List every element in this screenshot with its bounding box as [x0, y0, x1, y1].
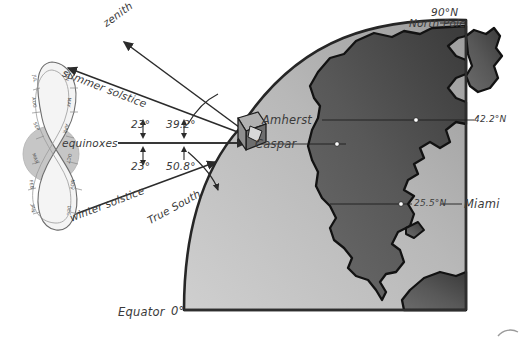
angle-392-arrowbot [181, 133, 187, 139]
zenith-ray [124, 42, 243, 130]
angle-23-lower-label: 23° [131, 160, 150, 172]
month-label-may: MAY [66, 97, 72, 107]
month-label-jan: JAN [30, 204, 36, 212]
miami-latitude-label: 25.5°N [414, 198, 446, 208]
month-label-feb: FEB [29, 180, 35, 189]
north-pole-name-label: North Pole [409, 17, 466, 29]
caspar-dot [335, 142, 340, 147]
angle-392-label: 39.2° [166, 118, 196, 130]
page-corner-arc [498, 330, 518, 336]
angle-508-label: 50.8° [166, 160, 196, 172]
angle-23-lower-arrowtop [140, 146, 146, 152]
month-label-dec: DEC [66, 205, 72, 215]
month-label-jul: JUL [32, 74, 38, 82]
equinoxes-label: equinoxes [62, 137, 118, 149]
diagram-svg [0, 0, 525, 341]
equator-degrees-label: 0° [171, 304, 184, 318]
amherst-label: Amherst [262, 113, 312, 127]
amherst-latitude-label: 42.2°N [474, 114, 506, 124]
quarter-globe [184, 20, 502, 310]
angle-23-upper-arrowbot [140, 133, 146, 139]
angle-23-upper-label: 23° [131, 118, 150, 130]
equator-label: Equator [118, 305, 165, 319]
miami-label: Miami [464, 197, 500, 211]
diagram-canvas: zenith summer solstice equinoxes winter … [0, 0, 525, 341]
amherst-dot [414, 118, 419, 123]
miami-dot [399, 202, 404, 207]
angle-508-arrowtop [181, 146, 187, 152]
land-greenland [466, 28, 502, 92]
caspar-label: Caspar [255, 137, 296, 151]
